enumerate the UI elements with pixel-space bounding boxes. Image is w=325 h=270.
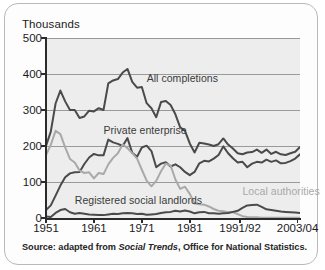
series-annotation-label: Registered social landlords	[75, 194, 202, 206]
x-axis-tick-mark	[93, 219, 95, 223]
x-axis-tick-mark	[297, 219, 299, 223]
series-annotation-label: Local authorities	[242, 185, 319, 197]
x-axis-tick-label: 1971	[129, 222, 155, 234]
y-axis-line	[45, 37, 47, 220]
x-axis-line	[45, 218, 301, 220]
x-axis-tick-label: 1981	[177, 222, 203, 234]
x-axis-tick-mark	[239, 219, 241, 223]
y-axis-tick-label: 300	[23, 104, 42, 116]
y-axis-tick-mark	[41, 37, 46, 39]
y-axis-tick-label: 500	[23, 32, 42, 44]
x-axis-tick-label: 2003/04	[277, 222, 319, 234]
source-note: Source: adapted from Social Trends, Offi…	[22, 242, 307, 252]
source-suffix: , Office for National Statistics.	[178, 242, 307, 252]
x-axis-tick-mark	[141, 219, 143, 223]
series-annotation-label: Private enterprise	[104, 124, 187, 136]
y-axis-tick-label: 400	[23, 68, 42, 80]
y-axis-tick-label: 200	[23, 140, 42, 152]
source-publication: Social Trends	[118, 242, 177, 252]
x-axis-tick-label: 1961	[81, 222, 107, 234]
y-axis-tick-mark	[41, 145, 46, 147]
x-axis-tick-mark	[189, 219, 191, 223]
y-axis-tick-mark	[41, 181, 46, 183]
x-axis-tick-label: 1951	[33, 222, 59, 234]
y-axis-tick-mark	[41, 73, 46, 75]
x-axis-tick-mark	[45, 219, 47, 223]
x-axis-tick-label: 1991/92	[219, 222, 261, 234]
y-axis-tick-label: 100	[23, 176, 42, 188]
y-axis-tick-mark	[41, 109, 46, 111]
series-annotation-label: All completions	[147, 72, 218, 84]
series-line	[46, 205, 300, 217]
source-prefix: Source: adapted from	[22, 242, 118, 252]
